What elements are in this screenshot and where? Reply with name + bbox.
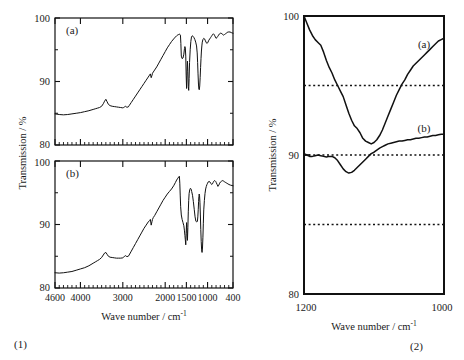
panel-1-xtick-2000: 2000	[155, 292, 175, 303]
panel-2-ytick-90: 90	[289, 150, 300, 161]
subplot-a-curve	[55, 32, 233, 115]
panel-2-ylabel: Transmission / %	[267, 118, 278, 191]
panel-1-xtick-1500: 1500	[176, 292, 196, 303]
panel-1-xtick-labels: 460040003000200015001000400	[45, 292, 241, 303]
panel-2-xtick-1200: 1200	[296, 302, 317, 313]
panel-2-xtick-1000: 1000	[432, 302, 453, 313]
panel-1-curves	[55, 32, 233, 273]
panel-1-xtick-4000: 4000	[70, 292, 90, 303]
panel-1-ticks	[55, 18, 233, 288]
panel-1-number: (1)	[14, 338, 27, 351]
subplot-a-ytick-100: 100	[34, 13, 50, 24]
subplot-b-ytick-90: 90	[40, 219, 51, 230]
subplot-a-label: (a)	[66, 24, 79, 37]
panel-2-xlabel: Wave number / cm-1	[331, 319, 417, 332]
panel-2-ytick-100: 100	[283, 11, 299, 22]
panel-1-xtick-400: 400	[226, 292, 241, 303]
figure-root: 100 90 80 100 90 80 (a) (b) 460040003000…	[0, 0, 464, 360]
panel-2-curve-b	[304, 134, 444, 173]
subplot-a-frame	[55, 18, 233, 145]
panel-2-ytick-80: 80	[289, 289, 300, 300]
subplot-b-label: (b)	[66, 167, 79, 180]
panel-1-xlabel: Wave number / cm-1	[101, 309, 187, 322]
subplot-b-curve	[55, 176, 233, 273]
panel-1-xtick-1000: 1000	[198, 292, 218, 303]
subplot-b-ytick-100: 100	[34, 157, 50, 168]
panel-2-number: (2)	[410, 340, 423, 353]
panel-1-xtick-4600: 4600	[45, 292, 65, 303]
panel-1: 100 90 80 100 90 80 (a) (b) 460040003000…	[0, 0, 244, 360]
subplot-a-ytick-80: 80	[40, 139, 51, 150]
panel-1-svg: 100 90 80 100 90 80 (a) (b) 460040003000…	[0, 0, 244, 360]
panel-2-curve-label-b: (b)	[418, 122, 431, 135]
subplot-a-ytick-90: 90	[40, 76, 51, 87]
panel-1-ylabel: Transmission / %	[17, 116, 28, 189]
panel-1-xtick-3000: 3000	[113, 292, 133, 303]
panel-2-reference-lines	[304, 86, 444, 225]
panel-2: 100 90 80 1200 1000 (a) (b) Transmission…	[244, 0, 464, 360]
panel-2-svg: 100 90 80 1200 1000 (a) (b) Transmission…	[244, 0, 464, 360]
panel-2-curve-label-a: (a)	[418, 38, 431, 51]
